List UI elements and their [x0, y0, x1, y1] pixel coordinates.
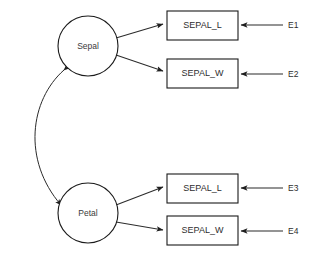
error-term-e1-label: E1	[288, 20, 299, 30]
observed-node-4-label: SEPAL_W	[182, 225, 224, 235]
loading-arrow-sepal-to-sepal-l	[116, 24, 163, 38]
observed-node-2-label: SEPAL_W	[182, 68, 224, 78]
loading-arrow-petal-to-sepal-w	[116, 222, 163, 230]
path-diagram-canvas: Sepal Petal SEPAL_L SEPAL_W SEPAL_L SEPA…	[0, 0, 313, 265]
loading-arrow-sepal-to-sepal-w	[116, 55, 163, 71]
error-term-e4-label: E4	[288, 226, 299, 236]
error-term-e2-label: E2	[288, 69, 299, 79]
sem-diagram-svg: Sepal Petal SEPAL_L SEPAL_W SEPAL_L SEPA…	[0, 0, 313, 265]
error-term-e3-label: E3	[288, 183, 299, 193]
latent-node-sepal-label: Sepal	[77, 41, 99, 51]
observed-node-1-label: SEPAL_L	[183, 20, 221, 30]
observed-node-3-label: SEPAL_L	[183, 183, 221, 193]
loading-arrow-petal-to-sepal-l	[116, 187, 163, 205]
covariance-arrow-sepal-petal	[35, 70, 64, 205]
latent-node-petal-label: Petal	[78, 208, 97, 218]
